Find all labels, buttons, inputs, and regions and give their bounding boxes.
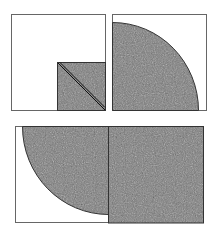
panel-top-left bbox=[12, 15, 106, 111]
panel-top-right bbox=[113, 15, 207, 111]
shaded-square bbox=[109, 127, 204, 224]
panel-bottom bbox=[16, 127, 204, 224]
figure-canvas bbox=[0, 0, 216, 235]
